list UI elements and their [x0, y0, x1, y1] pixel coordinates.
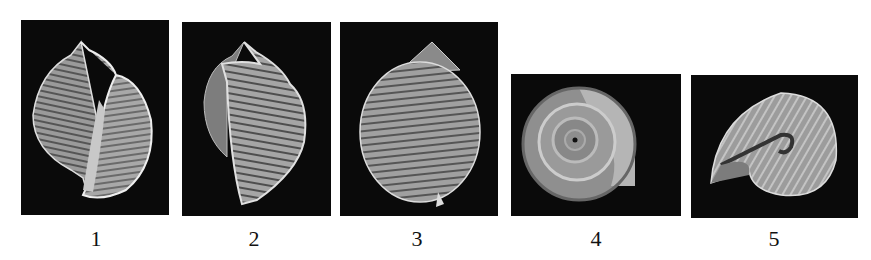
panel-label-1: 1	[76, 226, 116, 252]
shell-image-panel-4	[511, 74, 681, 216]
shell-apical-view-image	[511, 74, 681, 216]
shell-image-panel-2	[182, 22, 331, 216]
shell-lateral-view-image	[182, 22, 331, 216]
panel-label-3: 3	[397, 226, 437, 252]
shell-abapertural-view-image	[340, 22, 498, 216]
panel-label-4: 4	[576, 226, 616, 252]
panel-label-2: 2	[234, 226, 274, 252]
shell-image-panel-5	[691, 75, 858, 218]
shell-image-panel-1	[21, 20, 169, 215]
panel-label-5: 5	[754, 226, 794, 252]
shell-apertural-view-image	[21, 20, 169, 215]
shell-umbilical-view-image	[691, 75, 858, 218]
shell-image-panel-3	[340, 22, 498, 216]
